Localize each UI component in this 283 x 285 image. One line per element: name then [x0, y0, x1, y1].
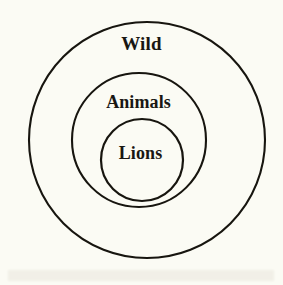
middle-circle-label: Animals	[0, 93, 277, 111]
outer-circle-label: Wild	[0, 34, 283, 53]
scan-artifact-smudge	[8, 270, 274, 281]
euler-diagram: Wild Animals Lions	[0, 0, 283, 285]
inner-circle-label: Lions	[0, 144, 281, 162]
